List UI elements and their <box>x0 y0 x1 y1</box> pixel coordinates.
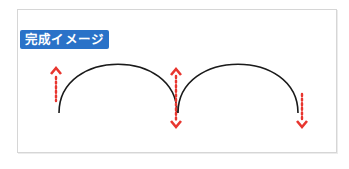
left-arc <box>59 64 177 113</box>
right-arc <box>178 64 298 113</box>
arrow-up-icon <box>51 68 61 101</box>
arc-diagram <box>0 0 349 169</box>
